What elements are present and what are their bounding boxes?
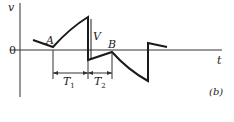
t2-subscript: 2 (101, 82, 105, 90)
amplitude-label: V (93, 31, 101, 42)
x-axis-label: t (217, 55, 221, 66)
t2-label: T2 (94, 76, 106, 90)
point-a-label: A (46, 35, 54, 46)
t1-subscript: 1 (70, 82, 74, 90)
y-axis-label: v (8, 2, 14, 13)
waveform-diagram: v 0 t A B V T1 T2 (b) (0, 0, 234, 122)
t1-label: T1 (63, 76, 75, 90)
figure-caption: (b) (209, 87, 223, 97)
point-b-label: B (108, 39, 116, 50)
origin-label: 0 (9, 45, 16, 56)
waveform-plot (0, 0, 234, 122)
